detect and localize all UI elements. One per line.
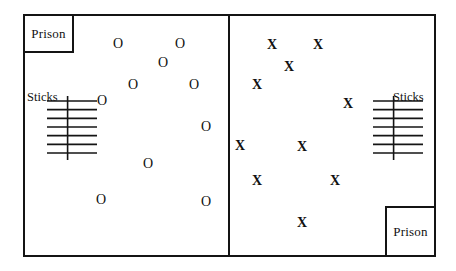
- prison-left-label: Prison: [31, 26, 65, 42]
- player-token-o: O: [128, 78, 138, 92]
- player-token-x: X: [252, 78, 262, 92]
- player-token-x: X: [267, 38, 277, 52]
- player-token-o: O: [189, 78, 199, 92]
- prison-right-label: Prison: [393, 224, 427, 240]
- diagram-canvas: OOOOOOOOOOXXXXXXXXXX Prison Prison Stick…: [0, 0, 456, 271]
- player-token-x: X: [313, 38, 323, 52]
- player-token-x: X: [235, 139, 245, 153]
- player-token-o: O: [158, 56, 168, 70]
- sticks-right-bundle: [372, 96, 426, 160]
- player-token-o: O: [201, 195, 211, 209]
- prison-left: Prison: [23, 14, 74, 53]
- player-token-o: O: [113, 37, 123, 51]
- player-token-x: X: [284, 60, 294, 74]
- player-token-x: X: [297, 140, 307, 154]
- center-dividing-line: [228, 14, 230, 257]
- sticks-left-bundle: [46, 96, 100, 160]
- player-token-o: O: [175, 37, 185, 51]
- player-token-o: O: [96, 193, 106, 207]
- player-token-o: O: [201, 120, 211, 134]
- player-token-x: X: [330, 174, 340, 188]
- player-token-x: X: [297, 216, 307, 230]
- prison-right: Prison: [385, 206, 436, 257]
- player-token-o: O: [143, 157, 153, 171]
- player-token-x: X: [343, 97, 353, 111]
- player-token-x: X: [252, 174, 262, 188]
